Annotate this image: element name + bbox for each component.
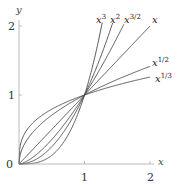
label-x-three-halves: x3/2	[124, 13, 141, 25]
label-x-sqrt: x1/2	[152, 56, 169, 68]
curve-x--1-3-	[19, 77, 150, 164]
curve-x--3-2-	[19, 24, 124, 164]
y-axis-label: y	[15, 4, 22, 15]
power-functions-chart: 0 1 2 1 2 x y x3 x2 x3/2 x x1/2 x1/3	[0, 0, 184, 185]
label-x: x	[152, 14, 158, 25]
curve-x-2	[19, 23, 113, 164]
x-tick-label-1: 1	[81, 171, 88, 184]
curves	[19, 23, 150, 164]
x-axis-label: x	[158, 156, 164, 167]
x-tick-label-2: 2	[147, 171, 154, 184]
label-x-squared: x2	[110, 13, 120, 25]
y-tick-label-2: 2	[8, 20, 15, 33]
curve-x--1-2-	[19, 66, 150, 164]
y-tick-label-1: 1	[8, 89, 15, 102]
label-x-cubed: x3	[96, 13, 106, 25]
origin-label: 0	[6, 158, 13, 171]
label-x-cbrt: x1/3	[155, 72, 172, 84]
